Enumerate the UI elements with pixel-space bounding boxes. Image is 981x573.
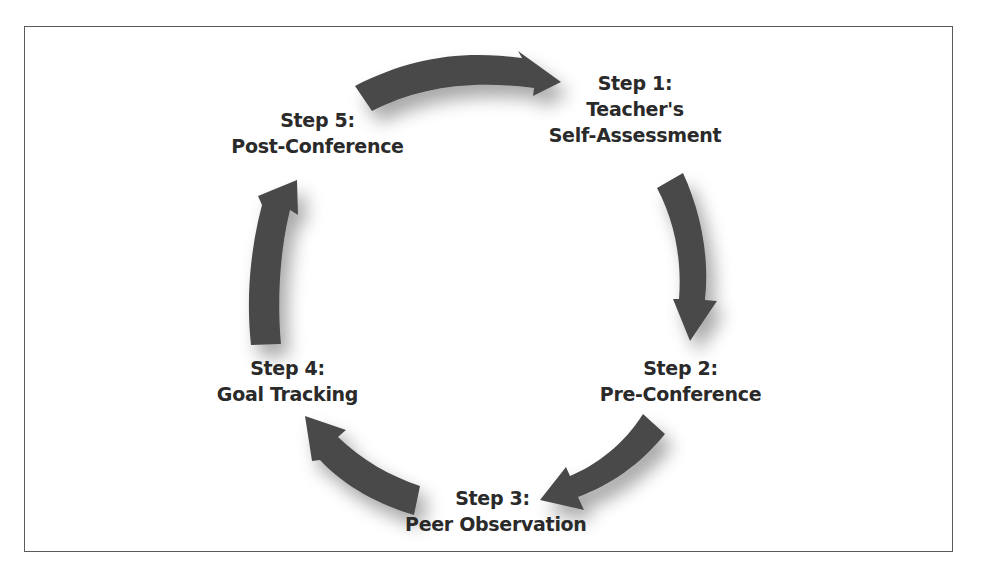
step-4-line-1: Goal Tracking: [200, 381, 375, 407]
arrow-step1-to-step2-icon: [657, 173, 717, 341]
step-4-label: Step 4: Goal Tracking: [200, 355, 375, 407]
step-1-label: Step 1: Teacher's Self-Assessment: [535, 70, 735, 148]
step-2-line-1: Pre-Conference: [588, 381, 773, 407]
step-3-label: Step 3: Peer Observation: [405, 485, 580, 537]
step-1-title: Step 1:: [535, 70, 735, 96]
arrow-step5-to-step1-icon: [355, 51, 561, 111]
step-3-title: Step 3:: [405, 485, 580, 511]
step-2-title: Step 2:: [588, 355, 773, 381]
step-1-line-1: Teacher's: [535, 96, 735, 122]
step-5-label: Step 5: Post-Conference: [225, 107, 410, 159]
step-1-line-2: Self-Assessment: [535, 122, 735, 148]
step-4-title: Step 4:: [200, 355, 375, 381]
step-3-line-1: Peer Observation: [405, 511, 580, 537]
step-5-title: Step 5:: [225, 107, 410, 133]
arrow-step3-to-step4-icon: [305, 416, 420, 515]
step-2-label: Step 2: Pre-Conference: [588, 355, 773, 407]
step-5-line-1: Post-Conference: [225, 133, 410, 159]
arrow-step4-to-step5-icon: [249, 180, 298, 345]
